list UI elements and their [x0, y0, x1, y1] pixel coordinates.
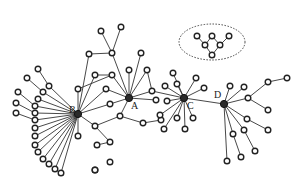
node	[265, 127, 271, 133]
edge	[43, 114, 78, 159]
hubs-layer	[74, 94, 227, 117]
node	[182, 126, 188, 132]
node	[244, 116, 250, 122]
node	[144, 67, 150, 73]
node	[190, 115, 196, 121]
node	[224, 158, 230, 164]
node	[13, 110, 19, 116]
node	[24, 75, 30, 81]
node	[117, 113, 123, 119]
edge	[101, 31, 112, 53]
network-graph-canvas	[0, 0, 301, 183]
network-diagram: A B C D	[0, 0, 301, 183]
node	[109, 72, 115, 78]
edge	[224, 104, 244, 130]
node	[217, 42, 223, 48]
edge	[129, 53, 141, 98]
edge	[244, 130, 255, 151]
node	[35, 149, 41, 155]
node	[75, 133, 81, 139]
edge	[233, 134, 241, 157]
node	[98, 28, 104, 34]
edge	[61, 114, 78, 173]
node	[164, 98, 170, 104]
edge	[78, 104, 110, 114]
hub-label-c: C	[187, 101, 194, 111]
node	[153, 97, 159, 103]
node	[13, 100, 19, 106]
edge	[38, 114, 78, 152]
node	[92, 72, 98, 78]
node	[265, 79, 271, 85]
edge	[78, 54, 89, 114]
node	[241, 127, 247, 133]
node	[209, 33, 215, 39]
node	[202, 42, 208, 48]
hub-label-d: D	[214, 90, 221, 100]
hub-label-a: A	[131, 101, 138, 111]
node	[252, 148, 258, 154]
node	[15, 89, 21, 95]
node	[92, 167, 98, 173]
node	[265, 107, 271, 113]
edge	[184, 98, 185, 129]
node	[52, 166, 58, 172]
node	[40, 156, 46, 162]
node	[238, 154, 244, 160]
hub-node-d	[220, 100, 227, 107]
node	[40, 89, 46, 95]
node	[103, 86, 109, 92]
node	[92, 123, 98, 129]
node	[230, 131, 236, 137]
node	[46, 83, 52, 89]
node	[138, 50, 144, 56]
edge	[248, 82, 268, 98]
node	[245, 95, 251, 101]
node	[58, 170, 64, 176]
node	[46, 161, 52, 167]
node	[109, 50, 115, 56]
node	[161, 126, 167, 132]
node	[94, 142, 100, 148]
edge	[120, 116, 143, 123]
node	[174, 115, 180, 121]
edge	[247, 119, 268, 130]
node	[126, 67, 132, 73]
node	[174, 81, 180, 87]
node	[32, 133, 38, 139]
node	[226, 33, 232, 39]
node	[194, 33, 200, 39]
node	[107, 101, 113, 107]
node	[107, 159, 113, 165]
edge	[78, 75, 95, 114]
node	[157, 112, 163, 118]
node	[32, 117, 38, 123]
node	[35, 96, 41, 102]
node	[32, 103, 38, 109]
node	[118, 24, 124, 30]
edge	[95, 116, 120, 126]
node	[149, 88, 155, 94]
node	[32, 110, 38, 116]
node	[140, 120, 146, 126]
node	[193, 75, 199, 81]
node	[209, 52, 215, 58]
node	[201, 85, 207, 91]
node	[75, 86, 81, 92]
hub-label-b: B	[69, 105, 76, 115]
edge	[112, 27, 121, 53]
node	[241, 84, 247, 90]
node	[284, 75, 290, 81]
node	[32, 125, 38, 131]
node	[227, 83, 233, 89]
node	[86, 51, 92, 57]
node	[162, 83, 168, 89]
node	[32, 142, 38, 148]
node	[35, 66, 41, 72]
node	[170, 70, 176, 76]
node	[107, 139, 113, 145]
